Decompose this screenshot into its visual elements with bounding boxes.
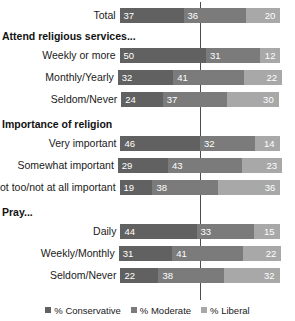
bar-segment-liberal: 12 bbox=[260, 48, 281, 63]
bar-value-label: 38 bbox=[162, 268, 173, 283]
group-header: Pray... bbox=[2, 206, 33, 219]
bar-value-label: 29 bbox=[122, 158, 133, 173]
row-label: Very important bbox=[49, 137, 117, 150]
bar-value-label: 43 bbox=[172, 158, 183, 173]
legend-item: % Conservative bbox=[45, 305, 121, 317]
bar-segment-conservative: 32 bbox=[118, 70, 173, 85]
bar-value-label: 38 bbox=[156, 180, 167, 195]
bar-value-label: 41 bbox=[177, 70, 188, 85]
bar-value-label: 30 bbox=[263, 92, 274, 107]
stacked-bar: 243730 bbox=[121, 92, 278, 107]
stacked-bar: 463214 bbox=[120, 136, 279, 151]
bar-value-label: 20 bbox=[265, 8, 276, 23]
bar-segment-liberal: 32 bbox=[224, 268, 279, 283]
bar-value-label: 31 bbox=[210, 48, 221, 63]
bar-value-label: 15 bbox=[264, 224, 275, 239]
bar-segment-moderate: 38 bbox=[152, 180, 218, 195]
bar-segment-liberal: 15 bbox=[254, 224, 280, 239]
legend-item: % Liberal bbox=[201, 305, 250, 317]
chart-row: Very important463214 bbox=[0, 136, 295, 151]
bar-value-label: 14 bbox=[264, 136, 275, 151]
row-label: Daily bbox=[93, 225, 116, 238]
bar-segment-conservative: 29 bbox=[118, 158, 168, 173]
chart-legend: % Conservative% Moderate% Liberal bbox=[0, 305, 295, 317]
bar-value-label: 50 bbox=[124, 48, 135, 63]
bar-value-label: 44 bbox=[124, 224, 135, 239]
chart-row: Not too/not at all important193836 bbox=[0, 180, 295, 195]
bar-segment-conservative: 31 bbox=[119, 246, 173, 261]
group-header: Attend religious services... bbox=[2, 30, 136, 43]
row-label: Seldom/Never bbox=[51, 93, 118, 106]
bar-value-label: 23 bbox=[267, 158, 278, 173]
chart-row: Somewhat important294323 bbox=[0, 158, 295, 173]
bar-value-label: 31 bbox=[123, 246, 134, 261]
bar-value-label: 22 bbox=[267, 70, 278, 85]
bar-value-label: 12 bbox=[265, 48, 276, 63]
bar-segment-moderate: 41 bbox=[172, 246, 243, 261]
chart-row: Weekly/Monthly314122 bbox=[0, 246, 295, 261]
bar-value-label: 37 bbox=[167, 92, 178, 107]
bar-segment-conservative: 50 bbox=[120, 48, 207, 63]
stacked-bar: 294323 bbox=[118, 158, 282, 173]
legend-swatch-icon bbox=[131, 307, 137, 313]
stacked-bar: 223832 bbox=[120, 268, 279, 283]
stacked-bar: 314122 bbox=[119, 246, 282, 261]
bar-value-label: 36 bbox=[265, 180, 276, 195]
row-label: Weekly/Monthly bbox=[41, 247, 115, 260]
bar-segment-liberal: 20 bbox=[246, 8, 281, 23]
bar-segment-liberal: 23 bbox=[242, 158, 282, 173]
bar-segment-liberal: 36 bbox=[218, 180, 280, 195]
row-label: Monthly/Yearly bbox=[45, 71, 113, 84]
legend-swatch-icon bbox=[201, 307, 207, 313]
bar-value-label: 41 bbox=[176, 246, 187, 261]
stacked-bar: 373620 bbox=[120, 8, 281, 23]
legend-label: % Liberal bbox=[210, 305, 250, 317]
bar-segment-moderate: 41 bbox=[173, 70, 244, 85]
bar-segment-moderate: 37 bbox=[163, 92, 227, 107]
bar-segment-moderate: 43 bbox=[168, 158, 242, 173]
bar-segment-conservative: 22 bbox=[120, 268, 158, 283]
bar-value-label: 36 bbox=[188, 8, 199, 23]
bar-value-label: 32 bbox=[122, 70, 133, 85]
bar-segment-conservative: 37 bbox=[120, 8, 184, 23]
stacked-bar: 324122 bbox=[118, 70, 282, 85]
bar-value-label: 32 bbox=[264, 268, 275, 283]
row-label: Weekly or more bbox=[42, 49, 115, 62]
legend-label: % Moderate bbox=[140, 305, 191, 317]
stacked-bar: 503112 bbox=[120, 48, 281, 63]
bar-value-label: 19 bbox=[124, 180, 135, 195]
chart-row: Monthly/Yearly324122 bbox=[0, 70, 295, 85]
bar-segment-liberal: 22 bbox=[244, 70, 282, 85]
stacked-bar: 443315 bbox=[120, 224, 279, 239]
bar-value-label: 46 bbox=[124, 136, 135, 151]
bar-segment-moderate: 31 bbox=[206, 48, 260, 63]
row-label: Total bbox=[93, 9, 115, 22]
bar-value-label: 24 bbox=[125, 92, 136, 107]
bar-segment-moderate: 38 bbox=[158, 268, 224, 283]
bar-segment-moderate: 36 bbox=[184, 8, 246, 23]
legend-item: % Moderate bbox=[131, 305, 191, 317]
stacked-bar: 193836 bbox=[120, 180, 281, 195]
chart-row: Weekly or more503112 bbox=[0, 48, 295, 63]
bar-segment-liberal: 14 bbox=[255, 136, 279, 151]
chart-row: Total373620 bbox=[0, 8, 295, 23]
bar-value-label: 37 bbox=[124, 8, 135, 23]
bar-value-label: 32 bbox=[204, 136, 215, 151]
legend-label: % Conservative bbox=[54, 305, 121, 317]
chart-row: Seldom/Never223832 bbox=[0, 268, 295, 283]
bar-value-label: 22 bbox=[124, 268, 135, 283]
bar-segment-moderate: 33 bbox=[197, 224, 254, 239]
group-header: Importance of religion bbox=[2, 118, 112, 131]
row-label: Seldom/Never bbox=[50, 269, 117, 282]
bar-segment-conservative: 19 bbox=[120, 180, 153, 195]
legend-swatch-icon bbox=[45, 307, 51, 313]
bar-segment-moderate: 32 bbox=[200, 136, 255, 151]
bar-segment-liberal: 22 bbox=[243, 246, 281, 261]
bar-segment-conservative: 24 bbox=[121, 92, 163, 107]
bar-value-label: 33 bbox=[201, 224, 212, 239]
row-label: Somewhat important bbox=[18, 159, 114, 172]
chart-row: Daily443315 bbox=[0, 224, 295, 239]
bar-segment-liberal: 30 bbox=[227, 92, 279, 107]
stacked-bar-chart: Attend religious services...Importance o… bbox=[0, 0, 295, 321]
bar-value-label: 22 bbox=[266, 246, 277, 261]
